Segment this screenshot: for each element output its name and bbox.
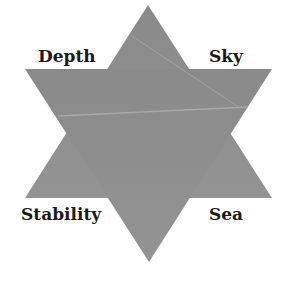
label-sea: Sea: [209, 206, 243, 223]
label-sky: Sky: [209, 48, 243, 65]
label-stability: Stability: [21, 206, 101, 223]
label-depth: Depth: [38, 48, 96, 65]
star-diagram: [0, 0, 289, 282]
